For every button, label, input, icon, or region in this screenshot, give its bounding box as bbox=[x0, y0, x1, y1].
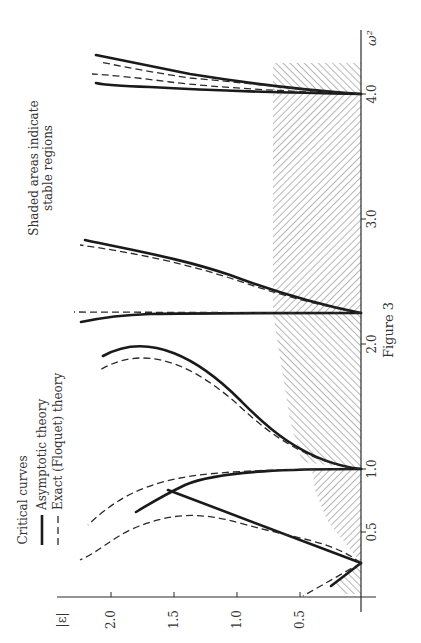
epsilon-axis-label: |ε| bbox=[54, 612, 69, 628]
legend: Critical curves Asymptotic theory Exact … bbox=[16, 372, 65, 545]
epsilon-tick-labels: 0.5 1.0 1.5 2.0 bbox=[104, 610, 307, 629]
tick-label-2: 2.0 bbox=[365, 334, 379, 353]
stable-region-225-4 bbox=[273, 94, 361, 313]
legend-dashed-label: Exact (Floquet) theory bbox=[51, 372, 65, 510]
eps-tick-10: 1.0 bbox=[230, 610, 244, 629]
tick-label-05: 0.5 bbox=[365, 522, 379, 541]
tick-label-3: 3.0 bbox=[365, 209, 379, 228]
exact-025-upper bbox=[80, 515, 361, 563]
eps-tick-15: 1.5 bbox=[167, 610, 181, 629]
eps-tick-05: 0.5 bbox=[293, 610, 307, 629]
shaded-note-line2: stable regions bbox=[41, 125, 55, 211]
omega-axis-label: ω² bbox=[364, 30, 379, 46]
shaded-note: Shaded areas indicate stable regions bbox=[27, 100, 55, 235]
figure-caption: Figure 3 bbox=[381, 302, 396, 358]
tick-label-1: 1.0 bbox=[365, 459, 379, 478]
omega-tick-labels: 4.0 3.0 2.0 1.0 0.5 bbox=[365, 84, 379, 541]
tick-label-4: 4.0 bbox=[365, 84, 379, 103]
legend-title: Critical curves bbox=[16, 455, 30, 544]
eps-tick-20: 2.0 bbox=[104, 610, 118, 629]
shaded-note-line1: Shaded areas indicate bbox=[27, 100, 41, 235]
chart-figure: 4.0 3.0 2.0 1.0 0.5 0.5 1.0 1.5 2.0 ω² |… bbox=[0, 0, 421, 643]
stable-regions bbox=[273, 63, 361, 594]
legend-solid-label: Asymptotic theory bbox=[35, 398, 49, 511]
stable-region-1-225 bbox=[273, 313, 361, 469]
